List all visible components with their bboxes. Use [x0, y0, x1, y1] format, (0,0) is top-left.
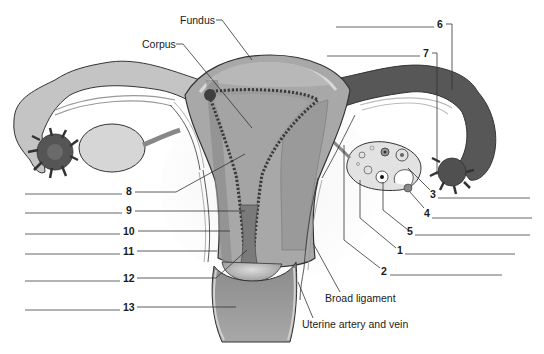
svg-text:Fundus: Fundus: [180, 14, 215, 26]
svg-text:Broad ligament: Broad ligament: [325, 292, 396, 304]
svg-text:7: 7: [423, 47, 429, 59]
svg-text:11: 11: [123, 245, 134, 257]
svg-text:5: 5: [407, 225, 413, 237]
numbered-label-13: 13: [25, 301, 236, 313]
svg-text:2: 2: [381, 265, 387, 277]
svg-text:9: 9: [126, 204, 132, 216]
svg-text:12: 12: [123, 272, 135, 284]
svg-text:1: 1: [397, 244, 403, 256]
svg-text:6: 6: [437, 18, 443, 30]
ovulated-oocyte: [404, 184, 412, 192]
svg-text:Corpus: Corpus: [142, 38, 176, 50]
label-uterine-artery-and-vein: Uterine artery and vein: [298, 282, 408, 330]
svg-text:13: 13: [123, 301, 135, 313]
svg-text:3: 3: [430, 188, 436, 200]
uterus-anatomy-diagram: Fundus Corpus Broad ligament Uterine art…: [0, 0, 544, 354]
numbered-label-4: 4: [410, 192, 532, 219]
svg-text:4: 4: [424, 207, 430, 219]
svg-text:Uterine artery and vein: Uterine artery and vein: [302, 318, 408, 330]
svg-text:8: 8: [126, 185, 132, 197]
svg-text:10: 10: [123, 225, 135, 237]
